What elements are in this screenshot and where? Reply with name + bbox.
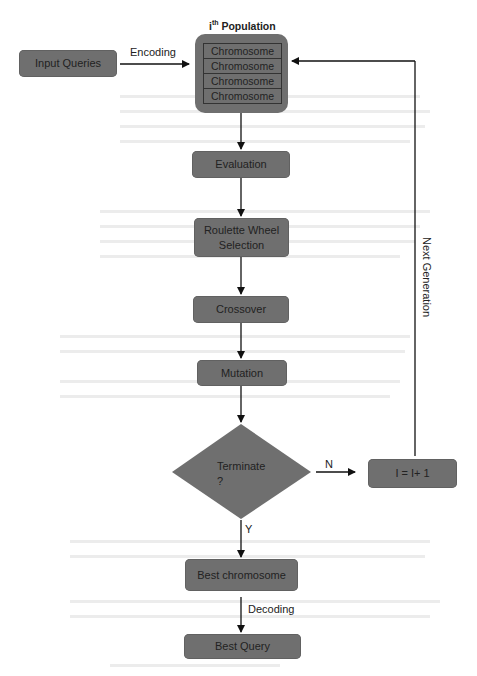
best-chromosome-label: Best chromosome	[197, 568, 286, 583]
terminate-label-line1: Terminate	[217, 460, 265, 472]
best-query-node: Best Query	[184, 634, 301, 659]
next-generation-edge-label: Next Generation	[421, 237, 433, 317]
decoding-edge-label: Decoding	[248, 603, 294, 615]
best-query-label: Best Query	[215, 639, 270, 654]
increment-node: I = I+ 1	[368, 459, 457, 488]
increment-label: I = I+ 1	[395, 466, 429, 481]
no-edge-label: N	[325, 458, 333, 470]
terminate-label-line2: ?	[217, 475, 223, 487]
yes-edge-label: Y	[245, 523, 252, 535]
best-chromosome-node: Best chromosome	[185, 559, 298, 591]
